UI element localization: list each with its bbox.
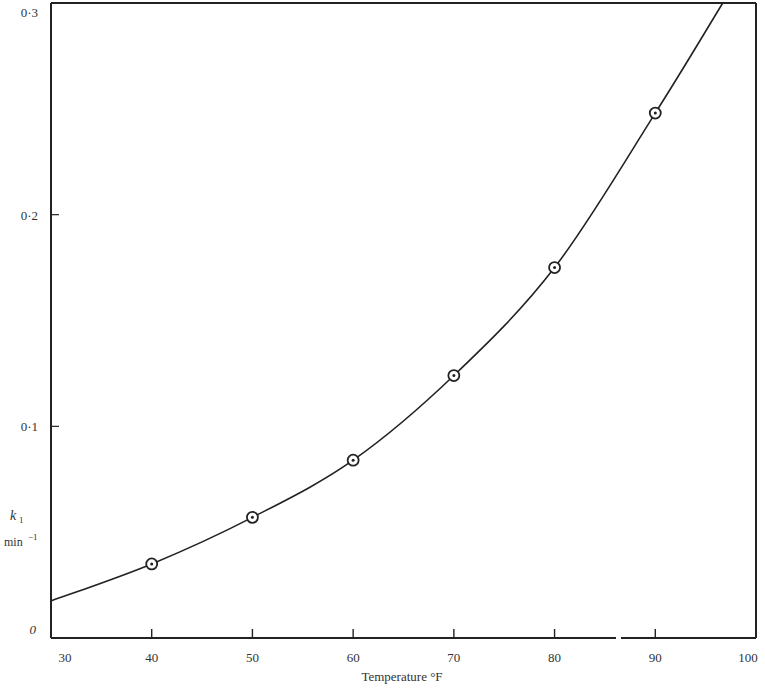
x-tick-label: 60 — [347, 650, 360, 665]
y-axis-symbol: k — [10, 508, 17, 523]
data-point-marker — [146, 558, 157, 569]
x-tick-label: 50 — [246, 650, 259, 665]
fitted-curve — [51, 3, 723, 601]
y-axis-ticks: 00·10·20·3 — [21, 5, 59, 637]
x-tick-label: 100 — [738, 650, 758, 665]
data-point-marker — [448, 370, 459, 381]
y-tick-label: 0 — [30, 622, 37, 637]
plot-frame — [51, 3, 756, 638]
data-point-marker — [549, 262, 560, 273]
y-axis-title: k 1 min −1 — [4, 508, 38, 549]
x-tick-label: 30 — [59, 650, 72, 665]
x-axis-title: Temperature °F — [361, 669, 442, 684]
x-tick-label: 70 — [447, 650, 460, 665]
x-tick-label: 40 — [145, 650, 158, 665]
y-tick-label: 0·1 — [21, 419, 38, 434]
y-tick-label: 0·2 — [21, 208, 38, 223]
data-point-marker — [650, 108, 661, 119]
x-axis-ticks: 30405060708090100 — [59, 629, 758, 665]
data-point-marker — [348, 455, 359, 466]
y-axis-subscript: 1 — [19, 515, 24, 525]
data-point-marker — [247, 512, 258, 523]
data-points — [146, 108, 661, 570]
chart: 30405060708090100 00·10·20·3 Temperature… — [0, 0, 765, 694]
y-axis-unit-exponent: −1 — [28, 532, 38, 542]
y-axis-unit: min — [4, 535, 23, 549]
x-tick-label: 90 — [649, 650, 662, 665]
x-tick-label: 80 — [548, 650, 561, 665]
y-tick-label: 0·3 — [21, 5, 38, 20]
